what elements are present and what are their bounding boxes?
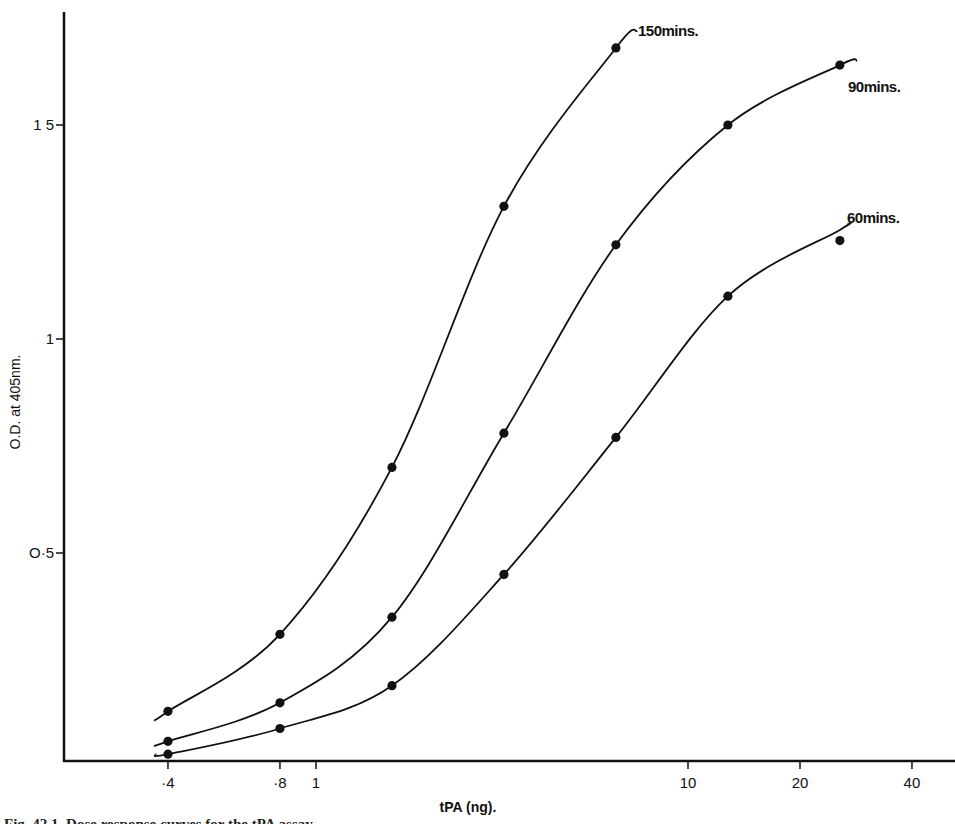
data-point	[835, 60, 844, 69]
data-point	[275, 630, 284, 639]
x-ticks: ·4·81102040	[161, 761, 920, 791]
x-tick-label: 40	[904, 774, 921, 791]
series-labels: 150mins. 90mins. 60mins.	[638, 22, 901, 226]
data-point	[499, 429, 508, 438]
y-tick-label: 1	[46, 330, 54, 347]
y-ticks: O·511 5	[29, 116, 64, 561]
data-point	[723, 292, 732, 301]
axes	[63, 12, 955, 762]
x-tick-label: ·4	[161, 774, 174, 791]
y-axis-title: O.D. at 405nm.	[7, 355, 23, 450]
data-point	[275, 724, 284, 733]
data-point	[387, 463, 396, 472]
x-tick-label: 20	[792, 774, 809, 791]
y-tick-label: O·5	[29, 544, 54, 561]
curve-60mins	[155, 222, 852, 756]
series-curves	[155, 29, 858, 756]
series-label-60mins: 60mins.	[847, 209, 900, 226]
chart: ·4·81102040 O·511 5 150mins. 90mins. 60m…	[0, 0, 955, 824]
x-tick-label: ·8	[273, 774, 286, 791]
data-point	[163, 750, 172, 759]
x-tick-label: 10	[680, 774, 697, 791]
data-point	[163, 707, 172, 716]
data-point	[835, 236, 844, 245]
data-point	[387, 681, 396, 690]
data-point	[387, 613, 396, 622]
data-point	[499, 202, 508, 211]
data-point	[611, 240, 620, 249]
data-point	[611, 433, 620, 442]
y-tick-label: 1 5	[33, 116, 54, 133]
x-axis-title: tPA (ng).	[440, 799, 497, 815]
x-tick-label: 1	[312, 774, 320, 791]
data-point	[275, 698, 284, 707]
data-point	[611, 43, 620, 52]
figure-caption: Fig. 42.1. Dose response curves for the …	[4, 812, 328, 824]
data-point	[723, 120, 732, 129]
series-label-150mins: 150mins.	[638, 22, 699, 39]
data-point	[499, 570, 508, 579]
data-points	[163, 43, 844, 758]
curve-90mins	[155, 59, 858, 746]
data-point	[163, 737, 172, 746]
series-label-90mins: 90mins.	[848, 78, 901, 95]
